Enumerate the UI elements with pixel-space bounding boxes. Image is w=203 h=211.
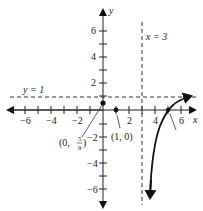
y-axis-label: y	[108, 5, 114, 16]
leader-1-0	[117, 115, 120, 128]
leader-5-0	[170, 114, 176, 130]
point-y-intercept-fraction-den: 9	[78, 144, 82, 152]
h-asymptote-label: y = 1	[22, 84, 44, 95]
x-tick-label: 2	[127, 115, 132, 126]
point-y-intercept-label: (0,	[59, 137, 70, 149]
point-5-0	[166, 108, 170, 112]
point-y-intercept-fraction-num: 5	[78, 135, 82, 143]
x-tick-label: −4	[46, 115, 57, 126]
y-tick-label: −4	[87, 158, 98, 169]
point-1-0-label: (1, 0)	[111, 131, 133, 143]
x-tick-label: −6	[20, 115, 31, 126]
x-tick-label: 6	[179, 115, 184, 126]
chart-canvas: −6 −4 −2 2 4 6 6 4 2 −2 −4 −6 x y y = 1 …	[0, 0, 203, 211]
point-1-0	[114, 108, 119, 113]
x-tick-label: 4	[153, 115, 158, 126]
y-tick-label: 2	[91, 77, 96, 88]
point-y-intercept-close: )	[83, 137, 86, 149]
v-asymptote-label: x = 3	[145, 31, 167, 42]
x-axis-label: x	[192, 114, 198, 125]
x-tick-label: −2	[72, 115, 83, 126]
y-tick-label: 4	[91, 51, 96, 62]
y-tick-label: −2	[87, 132, 98, 143]
y-tick-label: −6	[87, 184, 98, 195]
function-curve-lower-arrow	[150, 180, 151, 198]
y-tick-label: 6	[91, 25, 96, 36]
point-y-intercept	[100, 100, 105, 105]
function-curve	[150, 96, 191, 196]
